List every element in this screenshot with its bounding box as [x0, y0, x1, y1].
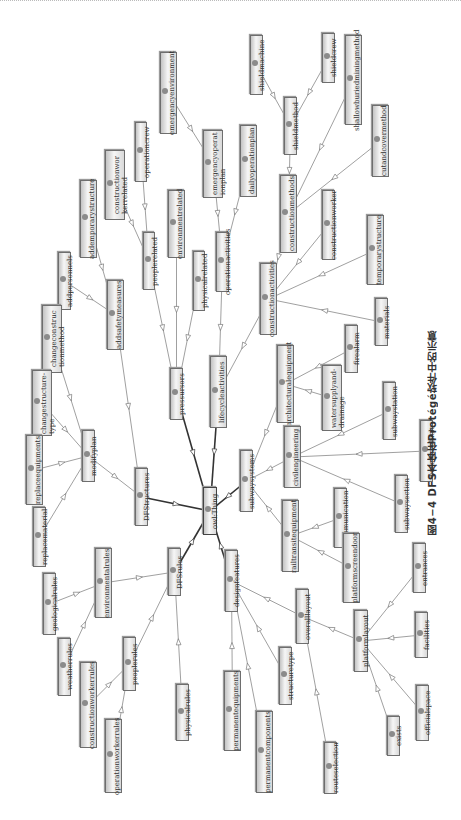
class-node-pressursors[interactable]: pressursors [170, 368, 183, 420]
class-node-shieldmethod[interactable]: shieldmethod [284, 97, 297, 155]
class-node-addpersonnels[interactable]: addpersonnels [58, 252, 71, 310]
class-node-constructionworkerrules[interactable]: constructionworkerrules [80, 662, 97, 748]
class-label: operationactivities [224, 229, 232, 295]
class-node-temporarystructure[interactable]: temporarystructure [367, 215, 384, 285]
class-node-exists[interactable]: exists [387, 716, 400, 756]
class-label: environmentrelated [176, 189, 184, 259]
arrow-icon [319, 271, 326, 276]
class-node-routeselection[interactable]: routeselection [324, 742, 337, 794]
class-node-constructionmethods[interactable]: constructionmethods [280, 175, 297, 253]
class-node-emergencyenvironment[interactable]: emergencyenvironment [160, 52, 177, 134]
class-label: facilities [423, 620, 431, 650]
class-node-lifecycleactivities[interactable]: lifecycleactivities [210, 356, 227, 428]
class-node-permanentequipments[interactable]: permanentequipments [224, 671, 241, 751]
class-label: materials [383, 305, 391, 338]
class-node-subwaystation[interactable]: subwaystation [383, 382, 396, 440]
class-node-shallowburiedminingmethod[interactable]: shallowburiedminingmethod [345, 35, 362, 125]
class-label: addpersonnels [66, 255, 74, 307]
class-node-dfsrules[interactable]: DFSrules [168, 548, 181, 596]
class-label: subwaysection [403, 478, 411, 530]
class-label: DFStructures [143, 473, 151, 521]
class-label: temporarystructure [375, 215, 383, 285]
arrow-icon [332, 174, 338, 180]
class-node-facilities[interactable]: facilities [415, 612, 428, 658]
class-node-firealarm[interactable]: firealarm [345, 325, 358, 373]
arrow-icon [160, 324, 165, 330]
class-node-addsafetymeasures[interactable]: addsafetymeasures [107, 280, 124, 350]
arrow-icon [315, 363, 321, 368]
class-node-physicalrules[interactable]: physicalrules [176, 684, 189, 741]
class-label: physicalrules [184, 689, 192, 736]
arrow-icon [212, 449, 217, 455]
class-node-emergencyoperationplan[interactable]: emergencyoperat ionplan [203, 130, 223, 198]
class-node-changestructuretype[interactable]: changestructure- type [32, 370, 52, 436]
class-node-platformscreendoor[interactable]: platformscreendoor [343, 533, 360, 603]
class-node-environmentalrules[interactable]: environmentalrules [95, 548, 112, 618]
class-node-structuretype[interactable]: structuretype [279, 647, 292, 705]
class-node-overalllayout[interactable]: overalllayout [296, 589, 309, 644]
class-node-architecturalequipment[interactable]: architecturalequipment [277, 345, 294, 423]
class-node-materials[interactable]: materials [375, 298, 388, 346]
class-label: civilengineering [292, 428, 300, 485]
class-label: modifyplan [90, 436, 98, 476]
class-node-constructionworker[interactable]: constructionworker [322, 190, 335, 260]
class-label: constructionworkerrules [88, 661, 96, 749]
class-node-railtransitequipment[interactable]: railtransitequipment [282, 500, 299, 572]
class-node-permanentcomponents[interactable]: permanentcomponents [256, 711, 273, 793]
class-node-constructionactivities[interactable]: constructionactivities [260, 263, 277, 335]
class-node-replaceequipments[interactable]: replaceequipments [26, 435, 43, 505]
class-node-weatherrules[interactable]: weatherrules [58, 638, 71, 696]
arrow-icon [219, 543, 224, 550]
class-label: lifecycleactivities [218, 361, 226, 423]
class-node-constructionworkerrelated[interactable]: constructionwor kerrelated [105, 150, 125, 220]
class-node-watersupplyanddrainage[interactable]: watersupplyand- drainage [322, 365, 342, 431]
class-node-modifyplan[interactable]: modifyplan [82, 430, 95, 482]
class-node-replacematerial[interactable]: replacematerial [33, 507, 46, 567]
class-node-civilengineering[interactable]: civilengineering [284, 426, 301, 488]
class-node-shieldcrew[interactable]: shieldcrew [322, 33, 335, 83]
arrow-icon [119, 707, 124, 713]
arrow-icon [305, 389, 312, 394]
class-label: peoplerules [131, 643, 139, 685]
arrow-icon [315, 689, 320, 695]
class-label: structuretype [287, 652, 295, 700]
arrow-icon [338, 431, 345, 436]
class-node-thing[interactable]: owl:Thing [203, 487, 217, 535]
arrow-icon [99, 264, 104, 270]
class-node-changeconstructionmethod[interactable]: changeconstruc tionmethod [42, 305, 62, 373]
arrow-icon [308, 89, 313, 95]
arrow-icon [189, 538, 194, 544]
class-node-cutandcovermethod[interactable]: cutandcovermethod [372, 105, 389, 177]
class-node-addemporarystructure[interactable]: addemporarystructure [80, 180, 97, 258]
class-node-geologicalrules[interactable]: geologicalrules [43, 573, 56, 635]
class-label: addemporarystructure [88, 179, 96, 259]
class-node-dailyoperationplan[interactable]: dailyoperationplan [240, 125, 257, 197]
class-label: officialspace [424, 691, 432, 735]
arrow-icon [270, 92, 275, 98]
class-node-dfstructures[interactable]: DFStructures [135, 468, 148, 526]
class-node-entrances[interactable]: entrances [413, 543, 426, 593]
class-node-shieldmachine[interactable]: shieldmachine [250, 35, 263, 95]
class-node-physicalrelated[interactable]: physicalrelated [193, 251, 205, 311]
class-node-peoplerelated[interactable]: peoplerelated [143, 232, 155, 290]
arrow-icon [287, 167, 292, 173]
class-label: emergencyoperat ionplan [211, 133, 227, 195]
class-node-platformlayout[interactable]: platformlayout [354, 610, 368, 672]
class-label: overalllayout [304, 593, 312, 639]
arrow-icon [246, 663, 251, 669]
arrow-icon [242, 342, 247, 348]
class-node-officialspace[interactable]: officialspace [416, 685, 429, 741]
class-node-designfeatures[interactable]: designfeatures [225, 550, 238, 612]
class-label: constructionactivities [268, 261, 276, 338]
class-node-environmentrelated[interactable]: environmentrelated [168, 190, 185, 258]
class-node-operationcrew[interactable]: operationcrew [135, 122, 147, 182]
class-node-peoplerules[interactable]: peoplerules [123, 637, 136, 691]
class-node-operationactivities[interactable]: operationactivities [216, 232, 229, 292]
class-label: operationworkerrules [113, 717, 121, 794]
class-node-subwaysection[interactable]: subwaysection [395, 475, 408, 533]
class-label: peoplerelated [151, 236, 159, 285]
class-node-subwaysystems[interactable]: subwaysystems [240, 450, 253, 512]
class-label: permanentcomponents [264, 711, 272, 793]
arrow-icon [126, 403, 131, 409]
class-node-operationworkerrules[interactable]: operationworkerrules [105, 719, 122, 793]
